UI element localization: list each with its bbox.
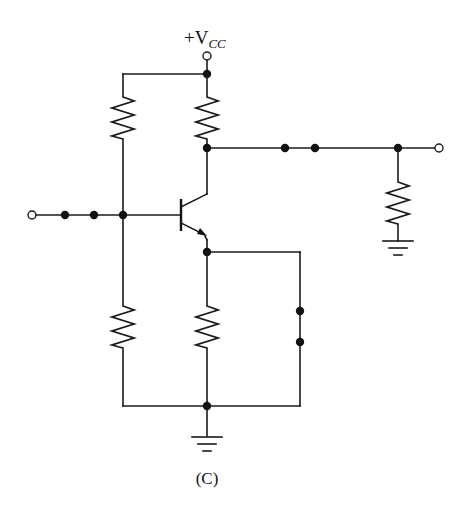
input-coupling-dot-1 — [61, 211, 69, 219]
output-coupling-dot-1 — [281, 144, 289, 152]
resistor-r2 — [112, 215, 134, 406]
vcc-terminal — [203, 52, 211, 60]
resistor-re — [196, 252, 218, 406]
bypass-dot-2 — [296, 338, 304, 346]
emitter-arrow-icon — [197, 228, 207, 236]
resistor-r1 — [112, 74, 134, 215]
bypass-dot-1 — [296, 307, 304, 315]
figure-label: (C) — [196, 469, 219, 488]
vcc-label: +VCC — [184, 27, 226, 51]
ground-symbol-load — [383, 241, 413, 255]
ground-symbol-main — [192, 437, 222, 451]
resistor-rc — [196, 74, 218, 194]
output-coupling-dot-2 — [311, 144, 319, 152]
npn-transistor-q1 — [181, 194, 207, 252]
output-terminal — [435, 144, 443, 152]
circuit-diagram: +VCC — [0, 0, 460, 507]
resistor-rl — [387, 148, 409, 241]
input-coupling-dot-2 — [90, 211, 98, 219]
input-terminal — [28, 211, 36, 219]
